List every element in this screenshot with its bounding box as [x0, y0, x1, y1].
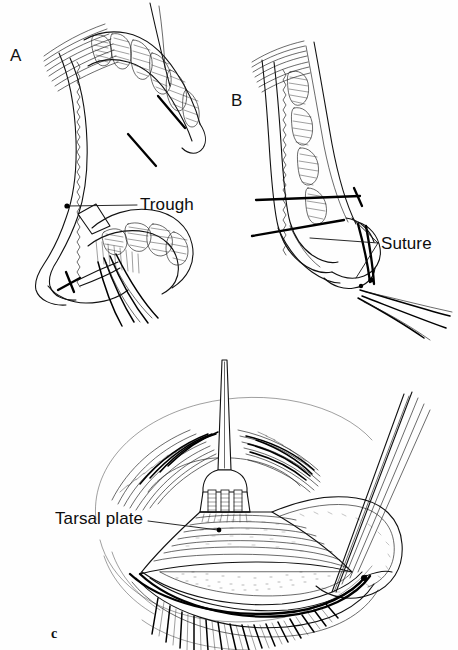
panel-a-drawing [35, 3, 205, 326]
panel-c-lower-eyelashes [152, 598, 338, 650]
panel-b-eyelashes [358, 290, 450, 338]
panel-b-conjunctival-border [283, 70, 286, 255]
panel-b-upper-lash-fan [252, 41, 310, 92]
panel-letter-c: c [51, 627, 58, 641]
panel-c-lateral-lid-flap [272, 497, 402, 598]
panel-b-suture-upper [256, 188, 362, 206]
figure-root: A B c Trough Suture Tarsal plate [0, 0, 458, 650]
panel-c-palpebral-fissure [140, 572, 370, 617]
annotation-suture: Suture [381, 235, 432, 252]
panel-a-skin-contour [35, 53, 76, 305]
panel-b-meibomian-glands [287, 71, 326, 224]
panel-a-meibomian-glands-upper [92, 34, 200, 127]
panel-b-eyelashes-thin [364, 292, 452, 340]
panel-letter-a: A [10, 47, 22, 64]
panel-a-skin-inner-contour [49, 58, 87, 300]
panel-b-suture-threads [358, 224, 374, 288]
panel-letter-b: B [231, 92, 243, 109]
panel-c-forceps [332, 392, 430, 592]
panel-a-trough-leader [64, 203, 137, 208]
annotation-trough: Trough [140, 196, 194, 213]
panel-b-lower-lid-wall2 [290, 226, 320, 267]
panel-b-drawing [252, 41, 452, 340]
panel-a-posterior-fold [159, 6, 165, 68]
illustration-canvas [0, 0, 458, 650]
panel-a-incision-marks [128, 96, 185, 166]
panel-c-tarsal-plate [140, 512, 352, 574]
panel-a-conjunctival-border [77, 62, 80, 287]
panel-c-retractor-slots [208, 490, 242, 512]
panel-b-lower-lid-wall [278, 228, 340, 283]
panel-a-posterior-fold2 [150, 3, 170, 86]
annotation-tarsal-plate: Tarsal plate [55, 510, 143, 527]
panel-c-drawing [95, 360, 430, 650]
panel-b-skin-contour [262, 60, 332, 273]
